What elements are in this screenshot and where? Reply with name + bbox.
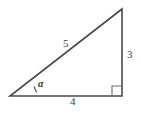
alpha-angle-label: α [38,79,44,89]
triangle-outline [10,9,122,96]
hypotenuse-label: 5 [63,38,69,49]
vertical-side-label: 3 [127,49,133,60]
right-triangle-figure: 5 3 4 α [0,0,141,117]
angle-tick-icon [34,87,37,93]
base-side-label: 4 [70,96,76,107]
right-angle-marker-icon [112,86,122,96]
